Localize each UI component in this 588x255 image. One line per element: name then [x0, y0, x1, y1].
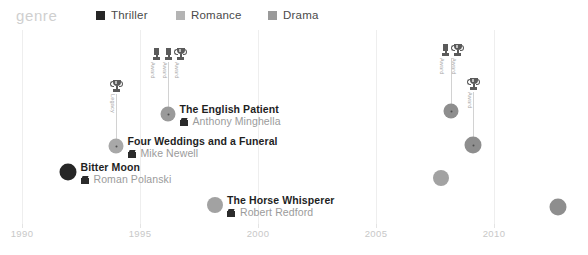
film-director: Robert Redford [227, 206, 335, 219]
tick-label: 2000 [247, 228, 270, 239]
film-title: The Horse Whisperer [227, 194, 335, 206]
award-label: Award [174, 62, 180, 79]
event-labels: Bitter MoonRoman Polanski [81, 161, 172, 186]
movie-camera-icon [227, 209, 236, 217]
legend-swatch-thriller [96, 11, 105, 20]
award-trophy[interactable]: Award [163, 48, 174, 60]
film-title: Bitter Moon [81, 161, 172, 173]
legend-item-drama[interactable]: Drama [268, 9, 319, 21]
film-title: Four Weddings and a Funeral [128, 135, 278, 147]
event-dot[interactable] [444, 104, 459, 119]
director-name: Anthony Minghella [193, 115, 281, 128]
legend-item-romance[interactable]: Romance [176, 9, 242, 21]
gridline [22, 30, 23, 225]
event-dot[interactable] [465, 137, 482, 154]
legend: genre Thriller Romance Drama [0, 0, 588, 30]
movie-camera-icon [128, 150, 137, 158]
award-label: Award [451, 58, 457, 75]
legend-label-drama: Drama [283, 9, 319, 21]
award-trophy[interactable]: Legacy [111, 80, 122, 92]
legend-title: genre [16, 7, 57, 24]
trophy-icon [440, 44, 451, 56]
legend-item-thriller[interactable]: Thriller [96, 9, 148, 21]
gridline [376, 30, 377, 225]
trophy-icon [111, 80, 122, 92]
legend-swatch-romance [176, 11, 185, 20]
event-dot[interactable] [550, 199, 567, 216]
director-name: Mike Newell [141, 147, 199, 160]
event-labels: Four Weddings and a FuneralMike Newell [128, 135, 278, 160]
film-director: Roman Polanski [81, 173, 172, 186]
film-title: The English Patient [180, 103, 281, 115]
movie-camera-icon [81, 176, 90, 184]
legend-label-thriller: Thriller [111, 9, 148, 21]
gridline [494, 30, 495, 225]
film-director: Mike Newell [128, 147, 278, 160]
event-dot-core [167, 113, 169, 115]
award-trophy[interactable]: Award [440, 44, 451, 56]
legend-swatch-drama [268, 11, 277, 20]
event-dot-core [472, 144, 474, 146]
event-labels: The English PatientAnthony Minghella [180, 103, 281, 128]
gridline [140, 30, 141, 225]
director-name: Robert Redford [240, 206, 313, 219]
event-dot[interactable] [109, 139, 124, 154]
event-dot-core [115, 145, 117, 147]
event-dot[interactable] [433, 170, 449, 186]
trophy-icon [452, 44, 463, 56]
event-dot-core [450, 110, 452, 112]
award-trophy[interactable]: Award [452, 44, 463, 56]
award-label: Award [150, 62, 156, 79]
award-trophy[interactable]: Award [468, 78, 479, 90]
trophy-icon [163, 48, 174, 60]
tick-label: 2010 [483, 228, 506, 239]
tick-label: 2005 [365, 228, 388, 239]
event-dot[interactable] [207, 197, 223, 213]
tick-label: 1995 [129, 228, 152, 239]
trophy-icon [175, 48, 186, 60]
award-label: Award [467, 92, 473, 109]
award-label: Award [162, 62, 168, 79]
event-labels: The Horse WhispererRobert Redford [227, 194, 335, 219]
event-dot[interactable] [161, 107, 176, 122]
award-trophy[interactable]: Award [151, 48, 162, 60]
timeline-chart: genre Thriller Romance Drama 19901995200… [0, 0, 588, 255]
event-dot[interactable] [60, 164, 77, 181]
movie-camera-icon [180, 118, 189, 126]
tick-label: 1990 [11, 228, 34, 239]
film-director: Anthony Minghella [180, 115, 281, 128]
director-name: Roman Polanski [94, 173, 172, 186]
award-label: Legacy [110, 94, 116, 113]
trophy-icon [151, 48, 162, 60]
legend-label-romance: Romance [191, 9, 242, 21]
trophy-icon [468, 78, 479, 90]
award-trophy[interactable]: Award [175, 48, 186, 60]
award-label: Award [439, 58, 445, 75]
